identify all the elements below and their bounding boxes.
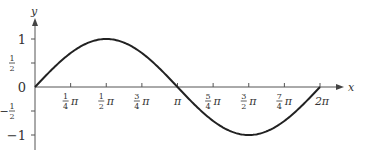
axes [32,18,344,150]
x-tick-label: 32π [241,92,257,111]
svg-text:2: 2 [99,102,104,111]
svg-text:2: 2 [241,102,246,111]
svg-text:π: π [284,95,293,108]
svg-text:1: 1 [18,32,26,47]
sine-chart: 14π12π34ππ54π32π74π2π1120−12−1 x y [0,0,369,159]
svg-text:−: − [0,105,9,118]
svg-text:π: π [173,95,182,108]
svg-text:4: 4 [134,102,139,111]
y-tick-label: 1 [18,32,26,47]
svg-text:3: 3 [134,92,139,101]
y-axis-arrow-icon [32,18,38,26]
svg-text:π: π [70,95,79,108]
svg-text:0: 0 [18,80,26,95]
svg-text:2: 2 [9,64,14,73]
svg-text:2: 2 [9,112,14,121]
svg-text:5: 5 [206,92,211,101]
x-tick-label: 74π [276,92,292,111]
x-tick-label: 12π [98,92,114,111]
svg-text:π: π [213,95,222,108]
x-axis-arrow-icon [336,84,344,90]
x-tick-label: 54π [205,92,221,111]
x-axis-label: x [348,81,355,94]
svg-text:−1: −1 [7,128,26,143]
y-axis-label: y [30,5,38,18]
y-tick-label: 0 [18,80,26,95]
svg-text:7: 7 [277,92,282,101]
svg-text:4: 4 [206,102,211,111]
y-tick-label: −1 [7,128,26,143]
x-tick-label: 34π [134,92,150,111]
svg-text:π: π [106,95,115,108]
x-tick-label: 2π [314,95,330,108]
svg-text:1: 1 [99,92,104,101]
svg-text:4: 4 [63,102,68,111]
svg-text:2π: 2π [314,95,330,108]
x-tick-label: 14π [63,92,79,111]
svg-text:3: 3 [241,92,246,101]
y-tick-label: 12 [9,54,15,73]
svg-text:π: π [141,95,150,108]
x-tick-label: π [173,95,182,108]
svg-text:4: 4 [277,102,282,111]
svg-text:π: π [248,95,257,108]
y-tick-label: −12 [0,102,15,121]
svg-text:1: 1 [9,54,14,63]
svg-text:1: 1 [9,102,14,111]
svg-text:1: 1 [63,92,68,101]
